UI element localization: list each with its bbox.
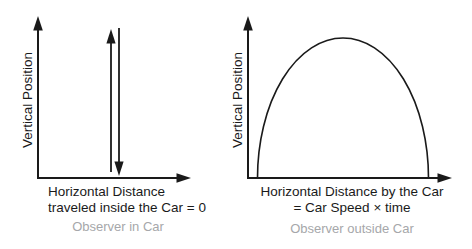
trajectory-arc bbox=[258, 38, 429, 178]
right-caption: Observer outside Car bbox=[252, 221, 452, 236]
left-x-axis-label-line2: traveled inside the Car = 0 bbox=[48, 200, 206, 216]
down-arrow bbox=[114, 28, 123, 176]
left-y-axis-label: Vertical Position bbox=[20, 20, 36, 180]
right-x-axis-label-line2: = Car Speed × time bbox=[250, 200, 454, 216]
right-y-axis-label: Vertical Position bbox=[230, 20, 246, 180]
physics-figure: Vertical Position Horizontal Distance tr… bbox=[0, 0, 472, 249]
left-x-axis-label-line1: Horizontal Distance bbox=[48, 184, 165, 200]
left-plot-x-axis bbox=[37, 173, 191, 183]
up-arrow bbox=[106, 29, 115, 172]
left-caption: Observer in Car bbox=[38, 219, 198, 234]
right-x-axis-label-line1: Horizontal Distance by the Car bbox=[250, 184, 454, 200]
right-plot-x-axis bbox=[247, 173, 452, 183]
